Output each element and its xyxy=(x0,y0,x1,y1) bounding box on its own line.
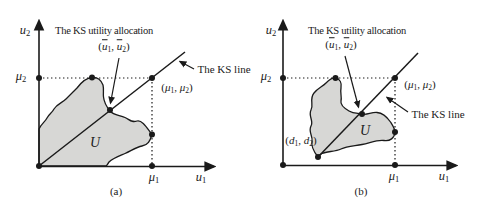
annotation-title-b: The KS utility allocation xyxy=(308,25,406,36)
ks-line-pointer-arrow-a xyxy=(180,62,194,70)
tick-label-mu2-b: μ2 xyxy=(261,70,272,83)
tick-label-mu1-a: μ1 xyxy=(149,171,160,184)
ks-line-pointer-arrow-b xyxy=(387,98,408,113)
ks-line-label-a: The KS line xyxy=(197,64,250,76)
tick-label-mu2-a: μ2 xyxy=(16,70,27,83)
tick-label-mu1-b: μ1 xyxy=(389,170,400,183)
axis-label-u1-a: u1 xyxy=(196,171,207,184)
point-mu1-mu2-a xyxy=(149,75,155,81)
point-region-top-a xyxy=(89,75,95,81)
allocation-arrow-a xyxy=(111,58,120,103)
axis-label-u1-b: u1 xyxy=(439,170,450,183)
point-origin-a xyxy=(36,163,42,169)
utility-set-label-a: U xyxy=(90,136,100,151)
ideal-point-coords-a: (μ1, μ2) xyxy=(161,82,192,94)
point-ks-allocation-b xyxy=(359,111,365,117)
ks-line-label-b: The KS line xyxy=(411,109,464,121)
ks-bargaining-figure: u2 The KS utility allocation (u1, u2) Th… xyxy=(0,0,486,210)
point-origin-b xyxy=(280,162,286,168)
point-mu1-axis-a xyxy=(149,163,155,169)
disagreement-point-coords-b: (d1, d2) xyxy=(285,135,316,147)
caption-a: (a) xyxy=(110,186,122,198)
caption-b: (b) xyxy=(355,186,368,198)
point-region-right-b xyxy=(392,129,398,135)
point-mu1-mu2-b xyxy=(392,75,398,81)
point-region-top-b xyxy=(333,75,339,81)
point-region-right-a xyxy=(149,132,155,138)
annotation-title-a: The KS utility allocation xyxy=(55,25,153,36)
point-mu2-axis-a xyxy=(36,75,42,81)
axis-label-u2-a: u2 xyxy=(20,24,31,37)
ks-allocation-coords-b: (u1, u2) xyxy=(325,39,356,51)
point-mu2-axis-b xyxy=(280,75,286,81)
utility-set-label-b: U xyxy=(360,124,370,139)
point-disagreement-b xyxy=(315,154,321,160)
ideal-point-coords-b: (μ1, μ2) xyxy=(404,79,435,91)
axis-label-u2-b: u2 xyxy=(266,24,277,37)
allocation-arrow-b xyxy=(345,56,359,107)
point-mu1-axis-b xyxy=(392,162,398,168)
point-ks-allocation-a xyxy=(107,107,113,113)
ks-allocation-coords-a: (u1, u2) xyxy=(98,41,129,53)
